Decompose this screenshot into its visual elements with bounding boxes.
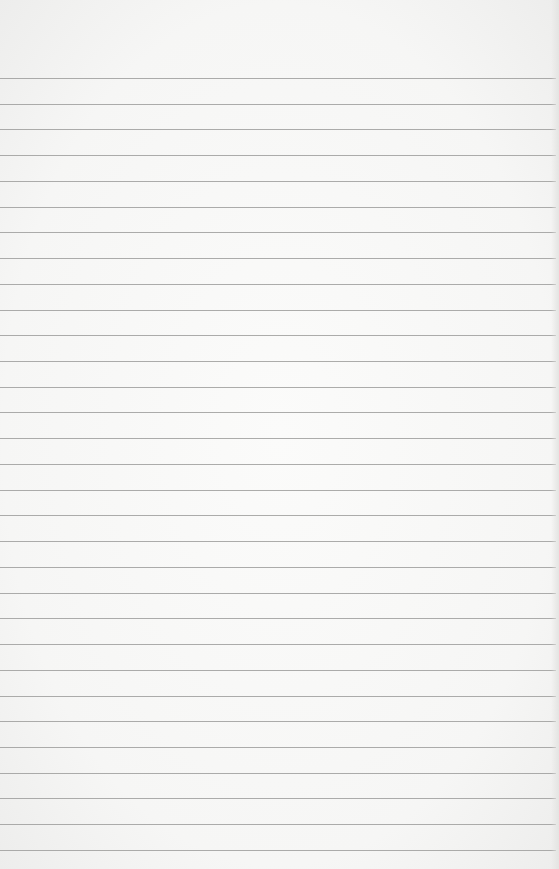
lined-paper-sheet	[0, 0, 559, 869]
ruled-line	[0, 207, 556, 208]
ruled-line	[0, 104, 556, 105]
ruled-line	[0, 644, 556, 645]
ruled-line	[0, 232, 556, 233]
ruled-line	[0, 798, 556, 799]
ruled-line	[0, 335, 556, 336]
ruled-line	[0, 129, 556, 130]
ruled-line	[0, 670, 556, 671]
ruled-line	[0, 181, 556, 182]
ruled-line	[0, 490, 556, 491]
ruled-line	[0, 412, 556, 413]
paper-edge-shadow	[551, 0, 559, 869]
ruled-line	[0, 824, 556, 825]
ruled-line	[0, 593, 556, 594]
ruled-line	[0, 78, 556, 79]
ruled-line	[0, 515, 556, 516]
ruled-line	[0, 696, 556, 697]
ruled-line	[0, 618, 556, 619]
ruled-line	[0, 773, 556, 774]
ruled-line	[0, 155, 556, 156]
ruled-line	[0, 541, 556, 542]
ruled-line	[0, 361, 556, 362]
ruled-line	[0, 721, 556, 722]
ruled-line	[0, 284, 556, 285]
ruled-line	[0, 567, 556, 568]
ruled-line	[0, 438, 556, 439]
ruled-line	[0, 464, 556, 465]
ruled-line	[0, 258, 556, 259]
ruled-line	[0, 387, 556, 388]
ruled-line	[0, 850, 556, 851]
ruled-line	[0, 747, 556, 748]
ruled-line	[0, 310, 556, 311]
